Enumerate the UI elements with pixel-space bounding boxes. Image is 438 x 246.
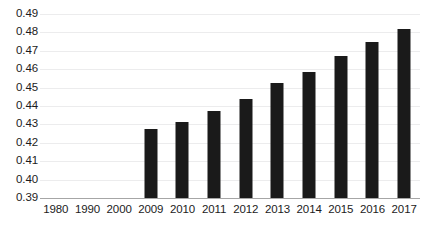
- x-axis-tick-label: 2012: [233, 203, 258, 217]
- bar-slot: [40, 0, 72, 198]
- y-axis-tick-label: 0.45: [4, 82, 38, 94]
- bar: [208, 111, 221, 198]
- bar-slot: [293, 0, 325, 198]
- bar: [366, 42, 379, 198]
- x-axis-tick-label: 2014: [297, 203, 322, 217]
- y-axis-tick-label: 0.47: [4, 45, 38, 57]
- bar-slot: [262, 0, 294, 198]
- bar: [398, 29, 411, 198]
- x-axis-tick-label: 2000: [107, 203, 132, 217]
- bar: [334, 56, 347, 198]
- x-axis-tick-label: 2011: [202, 203, 226, 217]
- x-axis-tick-label: 2016: [360, 203, 385, 217]
- x-axis-tick-label: 1990: [75, 203, 100, 217]
- y-axis-tick-label: 0.43: [4, 119, 38, 131]
- y-axis-tick-label: 0.40: [4, 174, 38, 186]
- y-axis-tick-labels: 0.390.400.410.420.430.440.450.460.470.48…: [0, 0, 38, 246]
- bar-chart: 0.390.400.410.420.430.440.450.460.470.48…: [0, 0, 438, 246]
- bar-slot: [230, 0, 262, 198]
- bar: [303, 72, 316, 198]
- x-axis-tick-label: 2015: [328, 203, 353, 217]
- x-axis-tick-labels: 1980199020002009201020112012201320142015…: [40, 203, 420, 227]
- x-axis-tick-label: 2009: [138, 203, 163, 217]
- y-axis-tick-label: 0.39: [4, 192, 38, 204]
- x-axis-line: [40, 198, 420, 199]
- bar: [239, 99, 252, 198]
- y-axis-tick-label: 0.46: [4, 63, 38, 75]
- y-axis-tick-label: 0.49: [4, 8, 38, 20]
- bar-slot: [103, 0, 135, 198]
- x-axis-tick-label: 2013: [265, 203, 290, 217]
- bar: [144, 129, 157, 198]
- x-axis-tick-label: 2010: [170, 203, 195, 217]
- y-axis-tick-label: 0.44: [4, 100, 38, 112]
- bar: [271, 83, 284, 198]
- y-axis-tick-label: 0.42: [4, 137, 38, 149]
- bar-slot: [72, 0, 104, 198]
- bar-slot: [388, 0, 420, 198]
- bar-series: [40, 0, 420, 198]
- bar-slot: [135, 0, 167, 198]
- y-axis-tick-label: 0.41: [4, 155, 38, 167]
- bar-slot: [198, 0, 230, 198]
- x-axis-tick-label: 1980: [43, 203, 68, 217]
- bar-slot: [357, 0, 389, 198]
- bar: [176, 122, 189, 198]
- bar-slot: [167, 0, 199, 198]
- bar-slot: [325, 0, 357, 198]
- x-axis-tick-label: 2017: [392, 203, 417, 217]
- y-axis-tick-label: 0.48: [4, 27, 38, 39]
